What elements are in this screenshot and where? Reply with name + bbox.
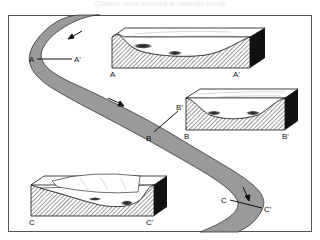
meander-diagram: A A' B B' C C' A A' B B' C C': [0, 0, 320, 240]
label-a-start: A: [29, 55, 35, 64]
cross-section-block-a: A A': [110, 28, 265, 79]
label-a-end: A': [74, 55, 81, 64]
label-b-end: B': [176, 103, 183, 112]
block-a-label-start: A: [110, 70, 116, 79]
block-c-label-start: C: [29, 218, 35, 227]
section-line-b: [154, 111, 178, 132]
block-c-label-end: C': [146, 218, 154, 227]
label-b-start: B: [146, 134, 151, 143]
label-c-start: C: [221, 196, 227, 205]
block-b-label-start: B: [184, 132, 189, 141]
flow-arrow-upper: [68, 31, 82, 39]
label-c-end: C': [264, 205, 272, 214]
block-a-label-end: A': [233, 70, 240, 79]
block-b-label-end: B': [282, 132, 289, 141]
cross-section-block-b: B B': [184, 89, 298, 141]
cross-section-block-c: C C': [29, 174, 167, 227]
